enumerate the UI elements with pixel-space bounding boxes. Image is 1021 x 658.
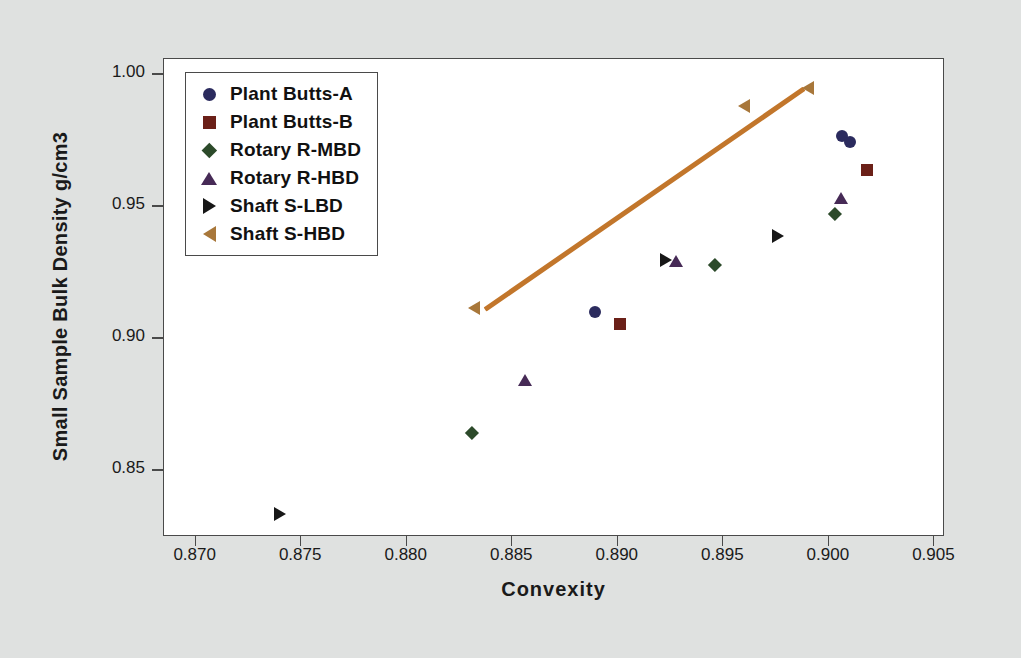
legend-item[interactable]: Plant Butts-A xyxy=(196,80,361,108)
x-axis-tick-label: 0.885 xyxy=(476,545,546,565)
legend-label: Rotary R-HBD xyxy=(230,167,359,189)
x-axis-tick-label: 0.890 xyxy=(582,545,652,565)
legend-marker-icon xyxy=(196,168,222,188)
legend-label: Shaft S-HBD xyxy=(230,223,345,245)
data-point xyxy=(828,207,842,221)
data-point xyxy=(274,507,286,521)
legend-item[interactable]: Shaft S-HBD xyxy=(196,220,361,248)
y-axis-title: Small Sample Bulk Density g/cm3 xyxy=(49,87,72,507)
data-point xyxy=(660,253,672,267)
data-point xyxy=(708,258,722,272)
y-axis-tick-label: 0.90 xyxy=(85,326,145,346)
legend-marker-icon xyxy=(196,196,222,216)
legend-label: Plant Butts-B xyxy=(230,111,353,133)
data-point xyxy=(465,426,479,440)
y-axis-tick-label: 1.00 xyxy=(85,62,145,82)
data-point xyxy=(738,99,750,113)
x-axis-title: Convexity xyxy=(163,578,944,601)
data-point xyxy=(468,301,480,315)
x-axis-tick-label: 0.875 xyxy=(265,545,335,565)
y-axis-tick xyxy=(152,469,163,471)
data-point xyxy=(518,374,532,386)
x-axis-tick-label: 0.905 xyxy=(898,545,968,565)
data-point xyxy=(844,136,856,148)
data-point xyxy=(861,164,873,176)
data-point xyxy=(589,306,601,318)
y-axis-tick xyxy=(152,337,163,339)
y-axis-tick-label: 0.85 xyxy=(85,458,145,478)
legend-label: Plant Butts-A xyxy=(230,83,353,105)
legend-item[interactable]: Rotary R-MBD xyxy=(196,136,361,164)
legend-label: Rotary R-MBD xyxy=(230,139,361,161)
y-axis-tick-label: 0.95 xyxy=(85,194,145,214)
data-point xyxy=(772,229,784,243)
trend-line xyxy=(483,87,805,312)
data-point xyxy=(802,81,814,95)
legend-item[interactable]: Shaft S-LBD xyxy=(196,192,361,220)
legend-marker-icon xyxy=(196,224,222,244)
chart-canvas: Small Sample Bulk Density g/cm3 Convexit… xyxy=(0,0,1021,658)
y-axis-tick xyxy=(152,73,163,75)
data-point xyxy=(614,318,626,330)
data-point xyxy=(834,192,848,204)
x-axis-tick-label: 0.900 xyxy=(793,545,863,565)
x-axis-tick-label: 0.895 xyxy=(687,545,757,565)
legend-item[interactable]: Rotary R-HBD xyxy=(196,164,361,192)
legend-marker-icon xyxy=(196,84,222,104)
legend-item[interactable]: Plant Butts-B xyxy=(196,108,361,136)
x-axis-tick-label: 0.880 xyxy=(371,545,441,565)
x-axis-tick-label: 0.870 xyxy=(160,545,230,565)
legend-marker-icon xyxy=(196,112,222,132)
legend-marker-icon xyxy=(196,140,222,160)
legend-label: Shaft S-LBD xyxy=(230,195,343,217)
y-axis-tick xyxy=(152,205,163,207)
legend-box: Plant Butts-APlant Butts-BRotary R-MBDRo… xyxy=(185,72,378,256)
